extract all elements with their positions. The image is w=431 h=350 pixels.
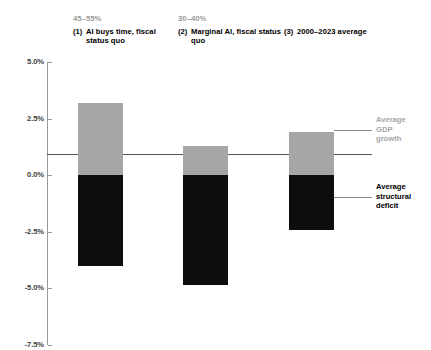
annotation-gdp-growth-line-2: GDP xyxy=(376,125,431,135)
y-axis-tick xyxy=(48,232,52,233)
y-axis-label: 2.5% xyxy=(4,114,44,123)
column-header-3: (3) 2000–2023 average xyxy=(284,14,388,36)
y-axis-tick xyxy=(48,288,52,289)
bar-structural-deficit-2 xyxy=(183,175,228,285)
column-header-2: 30–40% (2) Marginal AI, fiscal status qu… xyxy=(178,14,282,46)
column-range-2: 30–40% xyxy=(178,14,282,24)
gdp-growth-leader-line xyxy=(334,130,372,131)
annotation-structural-deficit-line-1: Average xyxy=(376,182,431,192)
column-title-2: (2) Marginal AI, fiscal status quo xyxy=(178,27,282,46)
column-title-1: (1) AI buys time, fiscal status quo xyxy=(73,27,177,46)
annotation-structural-deficit-line-3: deficit xyxy=(376,201,431,211)
y-axis-label: -5.0% xyxy=(4,283,44,292)
column-label-3: 2000–2023 average xyxy=(297,27,388,37)
column-label-2: Marginal AI, fiscal status quo xyxy=(191,27,282,46)
y-axis-tick xyxy=(48,119,52,120)
annotation-gdp-growth-line-1: Average xyxy=(376,115,431,125)
column-label-1: AI buys time, fiscal status quo xyxy=(86,27,177,46)
bar-gdp-growth-2 xyxy=(183,146,228,175)
y-axis-tick xyxy=(48,175,52,176)
column-header-1: 45–55% (1) AI buys time, fiscal status q… xyxy=(73,14,177,46)
y-axis-line xyxy=(47,62,48,345)
y-axis-label: -2.5% xyxy=(4,227,44,236)
bar-structural-deficit-1 xyxy=(78,175,123,266)
column-number-2: (2) xyxy=(178,27,191,46)
y-axis-label-wrap: 5.0% xyxy=(0,57,44,67)
bar-structural-deficit-3 xyxy=(289,175,334,229)
column-number-1: (1) xyxy=(73,27,86,46)
bar-gdp-growth-3 xyxy=(289,132,334,175)
y-axis-label-wrap: -2.5% xyxy=(0,227,44,237)
y-axis-label: 5.0% xyxy=(4,57,44,66)
annotation-structural-deficit-line-2: structural xyxy=(376,192,431,202)
y-axis-label-wrap: 2.5% xyxy=(0,114,44,124)
annotation-structural-deficit: Average structural deficit xyxy=(376,182,431,211)
y-axis-label-wrap: -5.0% xyxy=(0,283,44,293)
annotation-gdp-growth: Average GDP growth xyxy=(376,115,431,144)
y-axis-label-wrap: 0.0% xyxy=(0,170,44,180)
y-axis-label: -7.5% xyxy=(4,340,44,349)
y-axis-label: 0.0% xyxy=(4,170,44,179)
bar-gdp-growth-1 xyxy=(78,103,123,175)
annotation-gdp-growth-line-3: growth xyxy=(376,134,431,144)
y-axis-tick xyxy=(48,345,52,346)
column-title-3: (3) 2000–2023 average xyxy=(284,27,388,37)
y-axis-tick xyxy=(48,62,52,63)
column-number-3: (3) xyxy=(284,27,297,37)
structural-deficit-leader-line xyxy=(334,197,372,198)
y-axis-label-wrap: -7.5% xyxy=(0,340,44,350)
column-range-1: 45–55% xyxy=(73,14,177,24)
